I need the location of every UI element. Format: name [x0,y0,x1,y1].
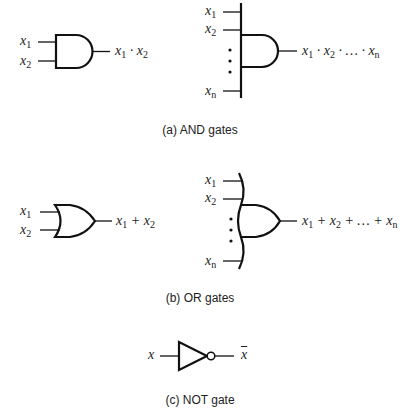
and2-output-label: x1 · x2 [115,44,148,60]
and-gate-n-input [223,3,297,98]
or2-output-label: x1 + x2 [116,214,155,230]
not-output-label: x [241,348,247,362]
orn-input-label-n: xn [205,254,216,270]
not-input-label: x [148,348,154,362]
or-gate-2-input [40,205,112,237]
andn-input-label-1: x1 [205,4,216,20]
gates-drawing [0,0,400,420]
andn-output-label: x1 · x2 · … · xn [302,44,380,60]
and2-input-label-2: x2 [20,54,31,70]
orn-input-label-2: x2 [205,191,216,207]
and2-input-label-1: x1 [20,34,31,50]
caption-not-gate: (c) NOT gate [165,394,234,406]
andn-input-label-n: xn [205,84,216,100]
or-gate-n-input [223,173,297,269]
and-gate-2-input [38,35,110,68]
caption-and-gates: (a) AND gates [162,124,237,136]
orn-output-label: x1 + x2 + … + xn [302,214,397,230]
or2-input-label-2: x2 [20,223,31,239]
or2-input-label-1: x1 [20,204,31,220]
orn-input-label-1: x1 [205,173,216,189]
andn-input-label-2: x2 [205,22,216,38]
caption-or-gates: (b) OR gates [166,292,235,304]
not-gate [160,342,234,370]
logic-gates-figure: x1 x2 x1 · x2 x1 x2 xn x1 · x2 · … · xn … [0,0,400,420]
